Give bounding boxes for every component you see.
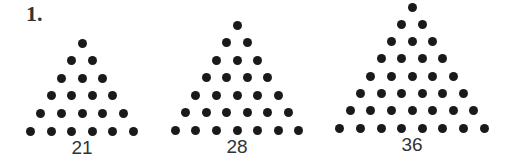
dot	[119, 109, 128, 118]
dot	[57, 109, 66, 118]
dot	[274, 91, 283, 100]
dot	[67, 56, 76, 65]
dot	[480, 124, 489, 133]
triangle-value-label: 28	[226, 136, 247, 158]
dot	[459, 89, 468, 98]
dot	[294, 126, 303, 135]
dot	[212, 126, 221, 135]
triangle-value-label: 21	[71, 137, 92, 159]
dot	[88, 127, 97, 136]
dot	[387, 37, 396, 46]
dot	[108, 91, 117, 100]
dot	[408, 3, 417, 12]
dot	[438, 54, 447, 63]
dot	[67, 91, 76, 100]
dot	[202, 108, 211, 117]
dot	[88, 56, 97, 65]
dot	[335, 124, 344, 133]
dot	[67, 127, 76, 136]
dot	[459, 124, 468, 133]
dot	[171, 126, 180, 135]
dot	[418, 124, 427, 133]
dot	[88, 91, 97, 100]
dot	[98, 109, 107, 118]
dot	[397, 54, 406, 63]
dot	[397, 20, 406, 29]
dot	[428, 37, 437, 46]
dot	[212, 56, 221, 65]
dot	[387, 106, 396, 115]
dot	[263, 108, 272, 117]
dot	[78, 74, 87, 83]
dot	[222, 38, 231, 47]
dot	[253, 126, 262, 135]
dot	[408, 106, 417, 115]
dot	[47, 127, 56, 136]
dot	[418, 54, 427, 63]
dot	[263, 73, 272, 82]
dot	[428, 106, 437, 115]
dot	[397, 124, 406, 133]
dot	[222, 73, 231, 82]
dot	[449, 106, 458, 115]
triangle-value-label: 36	[401, 134, 422, 156]
dot	[78, 39, 87, 48]
dot	[47, 91, 56, 100]
dot	[274, 126, 283, 135]
dot	[428, 72, 437, 81]
dot	[418, 20, 427, 29]
dot	[202, 73, 211, 82]
dot	[377, 54, 386, 63]
dot	[366, 72, 375, 81]
dot	[243, 73, 252, 82]
dot	[387, 72, 396, 81]
dot	[222, 108, 231, 117]
dot	[36, 109, 45, 118]
dot	[397, 89, 406, 98]
dot	[233, 126, 242, 135]
dot	[356, 124, 365, 133]
dot	[366, 106, 375, 115]
dot	[346, 106, 355, 115]
dot	[253, 91, 262, 100]
dot	[57, 74, 66, 83]
dot	[181, 108, 190, 117]
dot	[26, 127, 35, 136]
dot	[191, 91, 200, 100]
dot	[233, 56, 242, 65]
dot	[108, 127, 117, 136]
dot	[243, 108, 252, 117]
triangular-numbers-figure: 212836	[0, 0, 510, 166]
dot	[438, 89, 447, 98]
dot	[243, 38, 252, 47]
dot	[377, 124, 386, 133]
dot	[449, 72, 458, 81]
dot	[377, 89, 386, 98]
dot	[469, 106, 478, 115]
dot	[356, 89, 365, 98]
dot	[98, 74, 107, 83]
dot	[408, 37, 417, 46]
dot	[418, 89, 427, 98]
dot	[438, 124, 447, 133]
dot	[233, 21, 242, 30]
dot	[191, 126, 200, 135]
dot	[408, 72, 417, 81]
dot	[129, 127, 138, 136]
dot	[212, 91, 221, 100]
dot	[284, 108, 293, 117]
dot	[233, 91, 242, 100]
dot	[78, 109, 87, 118]
dot	[253, 56, 262, 65]
